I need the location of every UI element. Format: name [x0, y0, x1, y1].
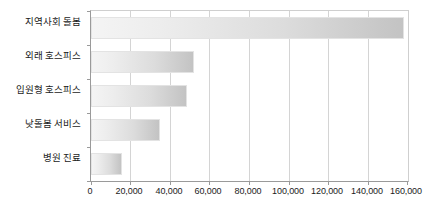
x-axis-label-0: 0	[88, 186, 93, 196]
x-axis-labels: 0 20,000 40,000 60,000 80,000 100,000 12…	[90, 186, 407, 202]
x-axis-label-5: 100,000	[272, 186, 304, 196]
x-tick-160000	[407, 181, 408, 185]
x-axis-label-2: 40,000	[156, 186, 183, 196]
x-tick-0	[91, 181, 92, 185]
x-axis-label-7: 140,000	[351, 186, 383, 196]
x-tick-40000	[170, 181, 171, 185]
bar-4	[91, 153, 122, 175]
x-tick-120000	[328, 181, 329, 185]
y-tick-2	[87, 79, 91, 80]
x-tick-20000	[130, 181, 131, 185]
category-label-3: 낮돌봄 서비스	[0, 118, 81, 129]
x-axis-label-6: 120,000	[311, 186, 343, 196]
y-tick-0	[87, 11, 91, 12]
x-axis-label-3: 60,000	[195, 186, 222, 196]
y-tick-4	[87, 147, 91, 148]
y-tick-3	[87, 113, 91, 114]
plot-area	[90, 10, 409, 182]
x-tick-100000	[289, 181, 290, 185]
x-axis-label-4: 80,000	[235, 186, 262, 196]
category-axis-labels: 지역사회 돌봄 외래 호스피스 입원형 호스피스 낮돌봄 서비스 병원 진료	[0, 10, 86, 180]
x-tick-80000	[249, 181, 250, 185]
category-label-1: 외래 호스피스	[0, 50, 81, 61]
bar-3	[91, 119, 160, 141]
x-tick-140000	[368, 181, 369, 185]
category-label-0: 지역사회 돌봄	[0, 16, 81, 27]
bar-chart: 지역사회 돌봄 외래 호스피스 입원형 호스피스 낮돌봄 서비스 병원 진료	[0, 0, 436, 221]
category-label-2: 입원형 호스피스	[0, 84, 81, 95]
category-label-4: 병원 진료	[0, 152, 81, 163]
bar-0	[91, 17, 404, 39]
x-tick-60000	[209, 181, 210, 185]
x-axis-label-8: 160,000	[390, 186, 422, 196]
bar-2	[91, 85, 187, 107]
y-tick-1	[87, 45, 91, 46]
x-axis-label-1: 20,000	[116, 186, 143, 196]
bar-1	[91, 51, 194, 73]
